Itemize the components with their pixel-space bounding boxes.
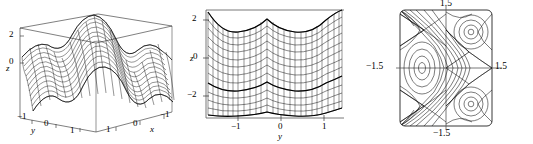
y-tick-1: 1 xyxy=(70,126,75,135)
surface-3d-svg xyxy=(0,0,178,144)
panel-side-projection: z 2 0 −2 −1 0 1 y xyxy=(178,0,356,144)
y-tick-0: 0 xyxy=(278,122,283,131)
panel-contour: 1.5 1.5 −1.5 −1.5 xyxy=(356,0,533,144)
plot-frame xyxy=(206,10,344,118)
contour-top-label: 1.5 xyxy=(440,0,452,9)
panel-surface-3d: z 2 0 y −1 0 1 x 1 0 −1 xyxy=(0,0,178,144)
x-tick-0: 0 xyxy=(133,119,138,128)
z-tick-0: 0 xyxy=(9,57,14,66)
y-axis-label: y xyxy=(278,132,282,141)
contour-left-label: −1.5 xyxy=(366,62,383,72)
z-tick-2: 2 xyxy=(9,30,14,39)
figure-row: z 2 0 y −1 0 1 x 1 0 −1 xyxy=(0,0,533,144)
x-tick-neg1: −1 xyxy=(160,110,170,119)
y-tick-neg1: −1 xyxy=(17,112,27,121)
y-tick-1: 1 xyxy=(322,122,327,131)
contour-bottom-label: −1.5 xyxy=(433,129,450,139)
surface-mesh-u xyxy=(22,15,173,111)
y-axis-label: y xyxy=(31,126,35,135)
x-tick-1: 1 xyxy=(106,125,111,134)
contour-right-label: 1.5 xyxy=(495,62,507,72)
z-tick-2: 2 xyxy=(192,14,197,23)
y-tick-0: 0 xyxy=(44,119,49,128)
y-tick-neg1: −1 xyxy=(231,122,241,131)
surface-mesh-v xyxy=(22,15,174,111)
z-tick-0: 0 xyxy=(193,52,198,61)
x-axis-label: x xyxy=(150,125,154,134)
x-axis-ticks xyxy=(116,115,164,131)
z-tick-neg2: −2 xyxy=(187,90,197,99)
contour-svg xyxy=(356,0,533,144)
side-projection-svg xyxy=(178,0,356,144)
